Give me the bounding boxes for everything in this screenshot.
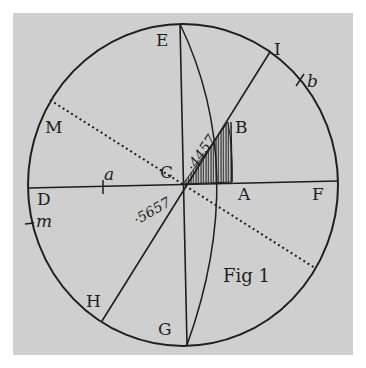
label-f: F: [312, 184, 324, 204]
label-b: B: [235, 117, 248, 137]
label-g: G: [158, 319, 172, 339]
label-d: D: [37, 189, 51, 209]
label-m: M: [45, 117, 62, 137]
label-i: I: [274, 39, 281, 59]
label-e: E: [156, 30, 168, 50]
geometric-figure: E I b M B C a D m A F H G ·4457 ·5657 Fi…: [0, 0, 366, 368]
figure-caption: Fig 1: [223, 265, 270, 286]
label-a: A: [237, 184, 251, 204]
label-a-lower: a: [104, 164, 114, 184]
label-b-lower: b: [307, 71, 318, 91]
label-c: C: [160, 162, 173, 182]
label-m-lower: m: [36, 211, 52, 231]
sine-line-b-a: [231, 122, 232, 182]
tick-m: [25, 223, 34, 224]
number-lower: ·5657: [131, 194, 174, 228]
label-h: H: [86, 291, 101, 311]
